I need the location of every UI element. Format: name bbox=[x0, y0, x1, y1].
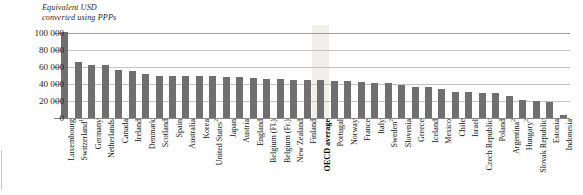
x-axis-category-label: United States2 bbox=[216, 119, 224, 165]
x-axis-category-label: Italy bbox=[378, 119, 386, 134]
footnote-marker: 2 bbox=[523, 119, 529, 122]
x-axis-category-label: Switzerland1 bbox=[81, 119, 89, 160]
x-axis-category-label: Slovenia bbox=[405, 119, 413, 147]
bar bbox=[223, 77, 230, 118]
x-axis-category-label: New Zealand bbox=[297, 119, 305, 162]
x-axis-category-label: OECD average bbox=[324, 119, 332, 171]
x-axis-category-label: Mexico bbox=[445, 119, 453, 144]
y-axis-unit-note: Equivalent USD converted using PPPs bbox=[42, 3, 116, 22]
bar bbox=[560, 115, 567, 118]
x-axis-category-label: Belgium (Fr.) bbox=[284, 119, 292, 163]
x-axis-category-label: Sweden2 bbox=[391, 119, 399, 147]
bar bbox=[102, 65, 109, 118]
x-axis-category-label: Slovak Republic bbox=[540, 119, 548, 173]
bar bbox=[479, 93, 486, 119]
x-axis-category-label: Canada bbox=[122, 119, 130, 143]
y-axis-tick-label: 40 000 bbox=[39, 79, 64, 89]
bar bbox=[358, 82, 365, 118]
x-axis-category-labels: LuxembourgSwitzerland1GermanyNetherlands… bbox=[58, 119, 570, 195]
plot-area bbox=[58, 33, 570, 118]
bar bbox=[182, 76, 189, 118]
bar bbox=[236, 77, 243, 118]
bar bbox=[344, 81, 351, 118]
y-axis-tick-label: 100 000 bbox=[34, 28, 64, 38]
chart-figure: Equivalent USD converted using PPPs 100 … bbox=[0, 0, 583, 195]
x-axis-category-label: Netherlands bbox=[108, 119, 116, 158]
bar bbox=[371, 83, 378, 118]
bar bbox=[115, 70, 122, 118]
x-axis-category-label: Denmark bbox=[149, 119, 157, 149]
y-axis-tick-label: 60 000 bbox=[39, 62, 64, 72]
x-axis-category-label: Austria bbox=[243, 119, 251, 143]
bar bbox=[169, 76, 176, 119]
x-axis-category-label: Iceland bbox=[432, 119, 440, 143]
bar bbox=[412, 87, 419, 118]
x-axis-category-label: Norway bbox=[351, 119, 359, 145]
x-axis-category-label: Germany bbox=[95, 119, 103, 149]
y-axis-tick-label: 20 000 bbox=[39, 96, 64, 106]
bar bbox=[533, 101, 540, 118]
bar bbox=[75, 62, 82, 118]
bar bbox=[277, 79, 284, 118]
bar bbox=[465, 92, 472, 118]
bar bbox=[142, 74, 149, 118]
x-axis-category-label: Estonia bbox=[553, 119, 561, 143]
x-axis-category-label: Ireland bbox=[135, 119, 143, 142]
y-axis-tick-label: 80 000 bbox=[39, 45, 64, 55]
bar bbox=[263, 79, 270, 118]
bar bbox=[492, 93, 499, 118]
bar bbox=[546, 102, 553, 118]
bar bbox=[209, 76, 216, 118]
bar bbox=[129, 71, 136, 118]
bar bbox=[290, 80, 297, 118]
x-axis-category-label: Spain bbox=[176, 119, 184, 137]
x-axis-category-label: England bbox=[257, 119, 265, 146]
x-axis-category-label: France bbox=[364, 119, 372, 141]
bar bbox=[317, 80, 324, 118]
x-axis-category-label: Japan bbox=[230, 119, 238, 137]
bar bbox=[156, 76, 163, 119]
x-axis-category-label: Finland bbox=[310, 119, 318, 144]
bar bbox=[398, 85, 405, 118]
gridline-100000 bbox=[58, 33, 570, 34]
x-axis-category-label: Belgium (Fl.) bbox=[270, 119, 278, 163]
bar bbox=[425, 87, 432, 118]
gridline-80000 bbox=[58, 50, 570, 51]
footnote-marker: 1 bbox=[79, 119, 85, 122]
x-axis-category-label: Portugal bbox=[337, 119, 345, 146]
bar bbox=[506, 96, 513, 118]
x-axis-category-label: Australia bbox=[189, 119, 197, 149]
x-axis-category-label: Hungary2 bbox=[526, 119, 534, 150]
x-axis-category-label: Scotland bbox=[162, 119, 170, 147]
x-axis-category-label: Greece bbox=[418, 119, 426, 142]
bar bbox=[385, 83, 392, 118]
bar bbox=[196, 76, 203, 118]
bar bbox=[304, 80, 311, 118]
bar bbox=[452, 92, 459, 118]
x-axis-category-label: Poland bbox=[499, 119, 507, 141]
x-axis-category-label: Chile bbox=[459, 119, 467, 137]
bar bbox=[88, 65, 95, 118]
x-axis-category-label: Czech Republic bbox=[486, 119, 494, 170]
bar bbox=[438, 89, 445, 118]
gridline-60000 bbox=[58, 67, 570, 68]
x-axis-category-label: Korea bbox=[203, 119, 211, 139]
bar bbox=[250, 78, 257, 118]
footnote-marker: 2 bbox=[213, 119, 219, 122]
bar bbox=[331, 81, 338, 118]
page-margin-rule bbox=[1, 150, 2, 190]
x-axis-category-label: Indonesia bbox=[566, 119, 574, 150]
footnote-marker: 2 bbox=[510, 119, 516, 122]
x-axis-category-label: Argentina2 bbox=[513, 119, 521, 154]
footnote-marker: 2 bbox=[389, 119, 395, 122]
x-axis-category-label: Israel bbox=[472, 119, 480, 137]
x-axis-category-label: Luxembourg bbox=[68, 119, 76, 161]
bar bbox=[519, 100, 526, 118]
